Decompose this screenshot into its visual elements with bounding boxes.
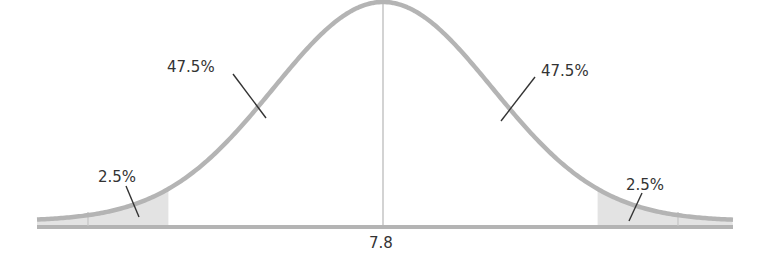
label-left-center: 47.5% (167, 58, 215, 76)
leader-left-center (233, 74, 266, 118)
label-left-tail: 2.5% (98, 168, 136, 186)
leader-right-center (501, 77, 535, 121)
normal-distribution-chart: 47.5% 47.5% 2.5% 2.5% 7.8 (0, 0, 773, 272)
label-mean: 7.8 (369, 234, 393, 252)
label-right-tail: 2.5% (626, 176, 664, 194)
label-right-center: 47.5% (541, 62, 589, 80)
